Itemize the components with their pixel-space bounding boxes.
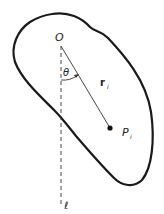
origin-label: O [55,31,64,44]
point-label: P [122,126,129,139]
point-subscript: i [130,133,132,140]
position-vector-label: r [100,77,105,88]
rigid-body-diagram: O θ r i P i ℓ [0,0,164,214]
position-vector-subscript: i [107,83,109,90]
angle-label: θ [63,67,69,78]
axis-label: ℓ [64,200,68,211]
point-p-dot [107,125,112,130]
body-outline [13,13,152,185]
